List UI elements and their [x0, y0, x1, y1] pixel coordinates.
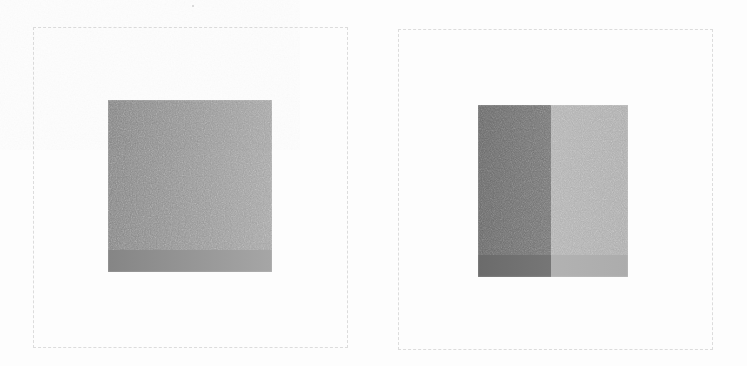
- uniform-gray-square-whole: [108, 100, 272, 272]
- figure-canvas: [0, 0, 747, 366]
- split-gray-square: [478, 105, 628, 277]
- split-gray-square-light-half: [551, 105, 628, 277]
- split-gray-square-dark-half: [478, 105, 551, 277]
- uniform-gray-square: [108, 100, 272, 272]
- scan-speck: [192, 5, 194, 7]
- panel-right: [398, 29, 713, 350]
- panel-left: [33, 27, 348, 348]
